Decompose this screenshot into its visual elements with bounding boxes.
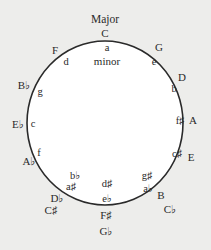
- minor-heading-key: a: [105, 42, 110, 53]
- major-key-label: D: [178, 72, 186, 83]
- minor-key-label: d: [63, 56, 68, 67]
- major-key-label: G: [155, 42, 163, 53]
- minor-key-label: b: [171, 83, 176, 94]
- major-key-label: A: [189, 115, 197, 126]
- minor-key-label: c♯: [172, 148, 182, 159]
- major-key-label: F♯: [100, 210, 112, 221]
- major-key-label: G♭: [99, 226, 112, 237]
- major-key-label: B♭: [18, 80, 31, 91]
- minor-key-label: b♭: [70, 170, 80, 181]
- minor-key-label: c: [31, 118, 36, 129]
- major-heading: Major: [91, 14, 119, 25]
- minor-key-label: g♯: [142, 170, 153, 181]
- major-key-label: D♭: [50, 193, 63, 204]
- circle-of-fifths-diagram: Major a minor CGDAEBC♭F♯G♭D♭C♯A♭E♭B♭F eb…: [0, 0, 211, 250]
- minor-key-label: f: [37, 147, 41, 158]
- major-key-label: C♭: [164, 204, 177, 215]
- major-key-label: C: [101, 28, 108, 39]
- major-key-label: C♯: [45, 205, 58, 216]
- minor-key-label: d♯: [102, 178, 113, 189]
- minor-heading: minor: [94, 56, 120, 67]
- major-key-label: F: [52, 45, 58, 56]
- minor-key-label: e♭: [102, 193, 112, 204]
- major-key-label: A♭: [22, 156, 35, 167]
- minor-key-label: a♯: [66, 181, 76, 192]
- minor-key-label: e: [152, 56, 157, 67]
- minor-key-label: g: [37, 86, 42, 97]
- minor-key-label: a♭: [143, 183, 153, 194]
- major-key-label: E♭: [12, 119, 24, 130]
- major-key-label: B: [157, 190, 164, 201]
- major-key-label: E: [188, 152, 195, 163]
- minor-key-label: f♯: [176, 115, 185, 126]
